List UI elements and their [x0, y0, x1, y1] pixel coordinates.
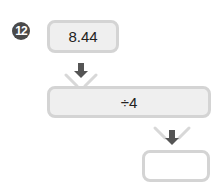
down-arrow-icon [151, 122, 193, 150]
answer-box[interactable] [142, 150, 210, 182]
problem-number-badge: 12 [12, 22, 30, 40]
input-box: 8.44 [47, 20, 119, 53]
operation-label: ÷4 [121, 94, 138, 111]
down-arrow-icon [60, 60, 102, 88]
input-value: 8.44 [68, 28, 97, 45]
operation-box: ÷4 [47, 86, 211, 118]
